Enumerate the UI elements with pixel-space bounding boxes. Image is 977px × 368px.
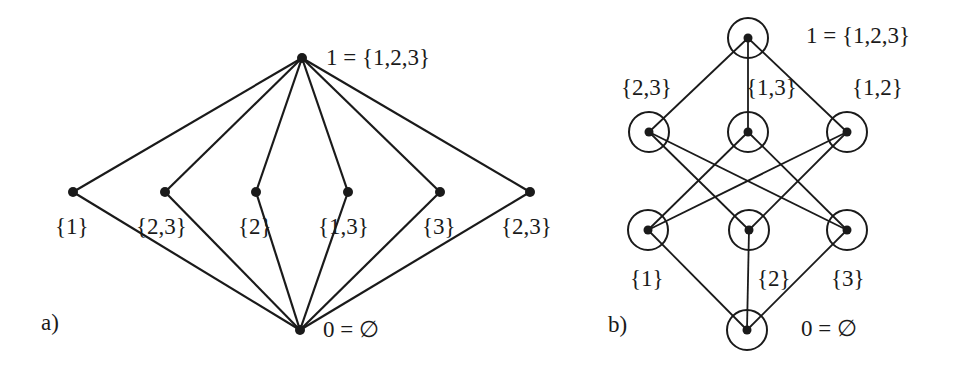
- lattice-diagrams: [0, 0, 977, 368]
- node-1: [68, 187, 78, 197]
- node-2: [251, 187, 261, 197]
- label-a-3: {3}: [422, 215, 456, 238]
- node-top: [297, 53, 307, 63]
- label-b-1: {1}: [630, 267, 664, 290]
- label-a-23: {2,3}: [136, 215, 187, 238]
- label-b-3: {3}: [831, 267, 865, 290]
- diagram-a-nodes: [68, 53, 535, 335]
- label-a-13: {1,3}: [318, 215, 369, 238]
- node-23: [160, 187, 170, 197]
- panel-label-a: a): [41, 311, 59, 334]
- node-23b: [525, 187, 535, 197]
- node-3: [435, 187, 445, 197]
- label-a-2: {2}: [238, 215, 272, 238]
- label-a-1: {1}: [55, 215, 89, 238]
- node-bottom: [295, 325, 305, 335]
- label-a-bottom: 0 = ∅: [323, 318, 379, 341]
- label-b-bottom: 0 = ∅: [801, 317, 857, 340]
- panel-label-b: b): [608, 313, 627, 336]
- label-a-23b: {2,3}: [501, 215, 552, 238]
- label-b-2: {2}: [757, 267, 791, 290]
- label-b-13: {1,3}: [746, 76, 797, 99]
- label-b-12: {1,2}: [852, 76, 903, 99]
- label-b-23: {2,3}: [621, 76, 672, 99]
- label-a-top: 1 = {1,2,3}: [326, 46, 430, 69]
- diagram-a-edges: [73, 58, 530, 330]
- node-13: [343, 187, 353, 197]
- label-b-top: 1 = {1,2,3}: [806, 24, 910, 47]
